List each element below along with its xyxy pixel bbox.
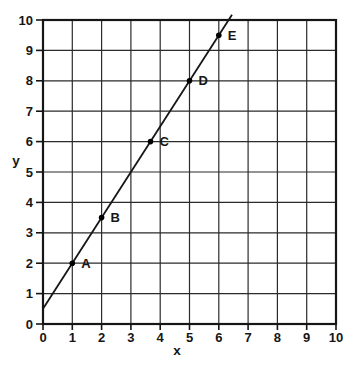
y-tick-label: 10 xyxy=(19,13,33,28)
x-tick-label: 1 xyxy=(69,330,76,345)
y-tick-label: 0 xyxy=(26,317,33,332)
x-tick-label: 3 xyxy=(127,330,134,345)
point-label-B: B xyxy=(111,210,120,225)
y-tick-label: 8 xyxy=(26,73,33,88)
x-tick-label: 6 xyxy=(215,330,222,345)
y-tick-label: 4 xyxy=(26,195,34,210)
y-tick-label: 6 xyxy=(26,134,33,149)
y-axis-label: y xyxy=(12,153,20,168)
y-tick-label: 1 xyxy=(26,286,33,301)
y-tick-label: 9 xyxy=(26,43,33,58)
x-tick-label: 9 xyxy=(303,330,310,345)
data-point-B xyxy=(99,215,105,221)
tick-labels: 012345678910012345678910 xyxy=(19,13,344,346)
x-tick-label: 10 xyxy=(329,330,343,345)
x-tick-label: 8 xyxy=(274,330,281,345)
point-label-D: D xyxy=(199,73,208,88)
y-tick-label: 7 xyxy=(26,104,33,119)
y-tick-label: 2 xyxy=(26,256,33,271)
x-tick-label: 5 xyxy=(186,330,193,345)
x-tick-label: 4 xyxy=(157,330,165,345)
point-label-E: E xyxy=(228,28,237,43)
x-tick-label: 7 xyxy=(244,330,251,345)
line-graph-figure: 012345678910012345678910xyABCDE xyxy=(0,0,362,367)
y-tick-label: 3 xyxy=(26,225,33,240)
y-tick-label: 5 xyxy=(26,165,33,180)
data-point-C xyxy=(148,139,154,145)
grid xyxy=(43,20,336,324)
axis-ticks xyxy=(36,20,336,330)
data-points: ABCDE xyxy=(70,28,237,271)
line-chart: 012345678910012345678910xyABCDE xyxy=(0,0,362,367)
x-tick-label: 0 xyxy=(39,330,46,345)
data-point-E xyxy=(216,32,222,38)
x-axis-label: x xyxy=(173,343,181,358)
point-label-C: C xyxy=(160,134,170,149)
data-point-D xyxy=(187,78,193,84)
data-point-A xyxy=(70,260,76,266)
point-label-A: A xyxy=(81,256,91,271)
x-tick-label: 2 xyxy=(98,330,105,345)
